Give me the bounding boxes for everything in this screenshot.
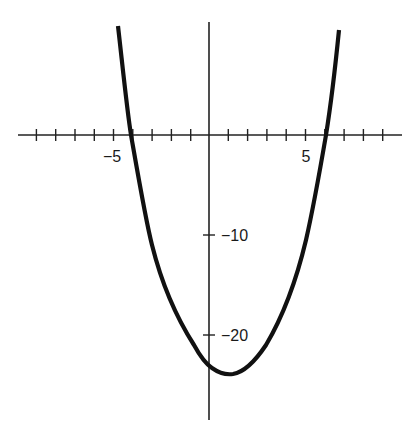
y-tick-label-neg10: −10 <box>221 227 248 244</box>
parabola-curve <box>118 26 339 374</box>
y-tick-label-neg20: −20 <box>221 327 248 344</box>
x-tick-label-5: 5 <box>302 148 311 165</box>
x-tick-label-neg5: −5 <box>103 148 121 165</box>
parabola-chart: −5 5 −10 −20 <box>0 0 413 436</box>
